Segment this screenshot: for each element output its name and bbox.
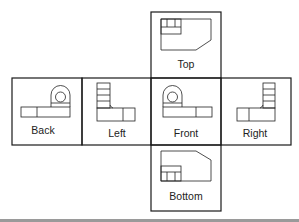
right-view-drawing (237, 83, 275, 121)
back-view-drawing (21, 86, 70, 118)
label-right: Right (243, 127, 268, 139)
orthographic-views-diagram: Top Back Left (0, 0, 299, 222)
view-right: Right (221, 78, 291, 145)
view-top: Top (151, 12, 221, 78)
footer-divider (0, 219, 299, 222)
bottom-view-drawing (161, 151, 211, 181)
label-top: Top (178, 58, 195, 70)
label-left: Left (108, 127, 126, 139)
front-view-drawing (163, 86, 212, 118)
view-back: Back (12, 78, 82, 145)
view-bottom: Bottom (151, 145, 221, 211)
view-left: Left (82, 78, 151, 145)
label-front: Front (174, 127, 199, 139)
view-front: Front (151, 78, 221, 145)
label-back: Back (31, 124, 55, 136)
top-view-drawing (161, 19, 211, 50)
left-view-drawing (97, 83, 135, 121)
label-bottom: Bottom (169, 190, 203, 202)
